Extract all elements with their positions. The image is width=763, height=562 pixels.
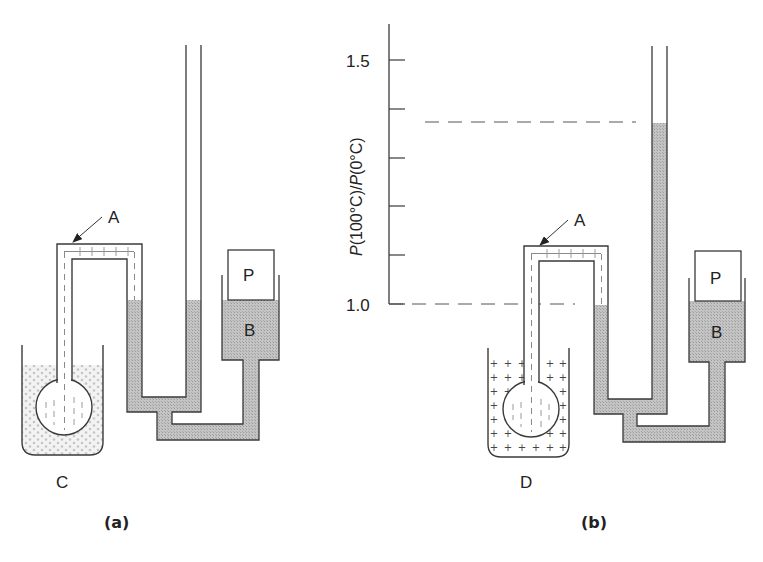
- svg-text:+: +: [559, 442, 567, 453]
- arrow-b-icon: [540, 220, 568, 245]
- svg-text:+: +: [504, 428, 512, 439]
- mercury-column-b: [594, 46, 745, 442]
- svg-text:+: +: [559, 386, 567, 397]
- svg-text:+: +: [546, 442, 554, 453]
- svg-text:+: +: [559, 414, 567, 425]
- ratio-scale-axis: 1.5 1.0 P(100°C)/P(0°C): [346, 24, 636, 315]
- tick-1-0: 1.0: [346, 296, 370, 315]
- gas-tube-a: [36, 244, 142, 435]
- svg-text:+: +: [532, 442, 540, 453]
- gas-tube-b: [503, 246, 608, 437]
- svg-text:+: +: [490, 428, 498, 439]
- svg-text:+: +: [490, 358, 498, 369]
- svg-text:+: +: [559, 372, 567, 383]
- label-C: C: [56, 473, 68, 492]
- svg-text:+: +: [559, 400, 567, 411]
- axis-title: P(100°C)/P(0°C): [348, 137, 365, 256]
- panel-b: +++++ +++++ +++ ++ ++ ++++ ++++++: [488, 46, 745, 532]
- gas-thermometer-diagram: A P B C (a) 1.5 1.0 P(100°C)/P(0°C) ++++…: [0, 0, 763, 562]
- svg-text:+: +: [490, 414, 498, 425]
- svg-text:+: +: [559, 428, 567, 439]
- svg-text:+: +: [546, 358, 554, 369]
- label-P-b: P: [710, 269, 721, 288]
- svg-text:+: +: [490, 372, 498, 383]
- label-A-b: A: [574, 211, 586, 230]
- svg-text:+: +: [490, 386, 498, 397]
- mercury-column-a: [127, 45, 279, 440]
- caption-a: (a): [104, 513, 129, 532]
- svg-text:+: +: [559, 358, 567, 369]
- label-P-a: P: [243, 266, 254, 285]
- label-D: D: [520, 473, 532, 492]
- svg-text:+: +: [546, 372, 554, 383]
- label-A-a: A: [108, 208, 120, 227]
- tick-1-5: 1.5: [346, 52, 370, 71]
- svg-text:+: +: [490, 442, 498, 453]
- svg-text:+: +: [504, 358, 512, 369]
- arrow-a-icon: [73, 217, 102, 242]
- label-B-b: B: [711, 323, 722, 342]
- svg-text:+: +: [504, 442, 512, 453]
- caption-b: (b): [581, 513, 607, 532]
- label-B-a: B: [244, 321, 255, 340]
- svg-text:+: +: [490, 400, 498, 411]
- svg-text:+: +: [518, 442, 526, 453]
- svg-text:+: +: [504, 372, 512, 383]
- panel-a: A P B C (a): [22, 45, 279, 532]
